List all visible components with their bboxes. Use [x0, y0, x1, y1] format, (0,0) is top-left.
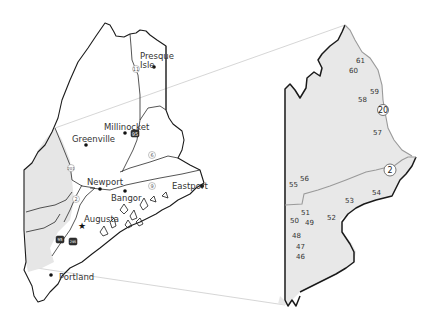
svg-text:295: 295: [70, 240, 77, 244]
exit-number-52: 52: [327, 214, 336, 222]
city-label-augusta: Augusta: [84, 214, 119, 224]
route-shield-295: 295: [69, 238, 77, 245]
route-shield-2-detail: 2: [384, 164, 396, 176]
exit-number-56: 56: [300, 175, 309, 183]
exit-number-59: 59: [370, 88, 379, 96]
city-label-greenville: Greenville: [72, 134, 115, 144]
svg-text:20: 20: [378, 106, 388, 115]
detail-map: 20 2 61605958575655545352515049484746: [278, 25, 416, 306]
route-shield-11: 11: [133, 66, 140, 73]
exit-number-55: 55: [289, 181, 298, 189]
city-label-newport: Newport: [87, 177, 124, 187]
exit-number-46: 46: [296, 253, 305, 261]
exit-number-60: 60: [349, 67, 358, 75]
map-figure: ★ Presque Isle Millinocket Greenville Ne…: [0, 0, 439, 325]
exit-number-48: 48: [292, 232, 301, 240]
exit-number-49: 49: [305, 219, 314, 227]
svg-text:11: 11: [133, 66, 139, 72]
shaded-region: [24, 128, 74, 272]
exit-number-51: 51: [301, 209, 310, 217]
route-shield-95-north: 95: [131, 130, 139, 137]
route-shield-9: 9: [149, 183, 156, 190]
overview-map: ★ Presque Isle Millinocket Greenville Ne…: [24, 23, 208, 302]
svg-text:2: 2: [387, 166, 392, 175]
svg-text:9: 9: [150, 183, 153, 189]
svg-text:95: 95: [132, 131, 138, 137]
city-marker-newport: [98, 187, 102, 191]
route-shield-20: 20: [378, 105, 389, 116]
exit-number-57: 57: [373, 129, 382, 137]
route-shield-2: 2: [73, 196, 80, 203]
exit-number-53: 53: [345, 197, 354, 205]
exit-number-58: 58: [358, 96, 367, 104]
city-label-millinocket: Millinocket: [104, 122, 150, 132]
route-shield-6: 6: [149, 152, 156, 159]
city-label-eastport: Eastport: [172, 181, 208, 191]
svg-text:2: 2: [74, 196, 77, 202]
city-label-portland: Portland: [59, 272, 94, 282]
svg-text:201: 201: [67, 166, 75, 171]
route-shield-201: 201: [67, 165, 75, 172]
exit-number-50: 50: [290, 217, 299, 225]
city-label-bangor: Bangor: [111, 193, 142, 203]
city-marker-portland: [49, 273, 53, 277]
svg-text:95: 95: [57, 237, 63, 242]
exit-number-54: 54: [372, 189, 381, 197]
route-shield-95-south: 95: [56, 236, 64, 243]
exit-number-47: 47: [296, 243, 305, 251]
exit-number-61: 61: [356, 57, 365, 65]
city-label-presque-isle-2: Isle: [140, 60, 155, 70]
svg-text:6: 6: [150, 152, 153, 158]
